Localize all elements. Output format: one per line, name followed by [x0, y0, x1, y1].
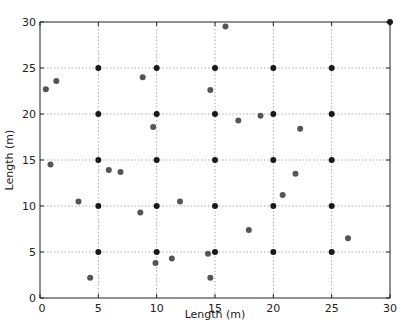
data-point: [223, 24, 229, 30]
data-points: [43, 19, 393, 281]
data-point: [154, 249, 160, 255]
data-point: [137, 209, 143, 215]
x-axis-label: Length (m): [185, 308, 246, 321]
data-point: [329, 111, 335, 117]
y-tick-label: 30: [22, 16, 36, 29]
data-point: [212, 65, 218, 71]
data-point: [258, 113, 264, 119]
data-point: [95, 249, 101, 255]
data-point: [246, 227, 252, 233]
data-point: [207, 87, 213, 93]
data-point: [43, 86, 49, 92]
data-point: [95, 111, 101, 117]
data-point: [48, 162, 54, 168]
data-point: [329, 157, 335, 163]
y-tick-label: 20: [22, 108, 36, 121]
data-point: [293, 171, 299, 177]
x-tick-label: 30: [383, 302, 397, 315]
axis-ticks: 051015202530051015202530: [22, 16, 397, 315]
data-point: [235, 117, 241, 123]
data-point: [329, 65, 335, 71]
data-point: [212, 111, 218, 117]
data-point: [95, 203, 101, 209]
y-tick-label: 25: [22, 62, 36, 75]
data-point: [280, 192, 286, 198]
data-point: [140, 74, 146, 80]
y-axis-label: Length (m): [3, 130, 16, 191]
data-point: [270, 157, 276, 163]
data-point: [270, 111, 276, 117]
data-point: [205, 251, 211, 257]
y-tick-label: 5: [29, 246, 36, 259]
x-tick-label: 25: [325, 302, 339, 315]
data-point: [345, 235, 351, 241]
x-tick-label: 5: [95, 302, 102, 315]
data-point: [270, 249, 276, 255]
x-tick-label: 20: [266, 302, 280, 315]
y-tick-label: 10: [22, 200, 36, 213]
y-tick-label: 15: [22, 154, 36, 167]
data-point: [169, 255, 175, 261]
data-point: [270, 65, 276, 71]
data-point: [329, 203, 335, 209]
data-point: [150, 124, 156, 130]
y-tick-label: 0: [29, 292, 36, 305]
data-point: [95, 65, 101, 71]
data-point: [212, 249, 218, 255]
x-tick-label: 0: [39, 302, 46, 315]
data-point: [387, 19, 393, 25]
scatter-chart: 051015202530051015202530 Length (m) Leng…: [0, 0, 409, 332]
data-point: [95, 157, 101, 163]
data-point: [53, 78, 59, 84]
data-point: [212, 203, 218, 209]
data-point: [329, 249, 335, 255]
data-point: [154, 65, 160, 71]
data-point: [177, 198, 183, 204]
data-point: [154, 203, 160, 209]
data-point: [153, 260, 159, 266]
data-point: [212, 157, 218, 163]
data-point: [297, 126, 303, 132]
x-tick-label: 10: [150, 302, 164, 315]
data-point: [118, 169, 124, 175]
data-point: [106, 167, 112, 173]
data-point: [207, 275, 213, 281]
data-point: [76, 198, 82, 204]
data-point: [270, 203, 276, 209]
data-point: [87, 275, 93, 281]
data-point: [154, 157, 160, 163]
data-point: [154, 111, 160, 117]
